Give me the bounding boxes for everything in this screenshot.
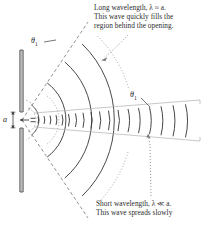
theta-beam-subscript: 1 [134,95,137,101]
bottom-caption-leader [149,136,152,196]
top-caption-arrowhead [101,57,107,61]
long-wavelength-wavefronts [31,44,114,196]
short-wavelength-wavefronts [38,104,188,137]
theta-upper-label: θ1 [31,36,38,47]
caption-short-line1: Short wavelength, λ ≪ a. [96,199,172,208]
top-caption-leader [104,35,128,58]
diffraction-drawing [0,0,208,225]
theta-upper-subscript: 1 [35,41,38,47]
caption-long-line2: This wave quickly fills the [94,12,174,21]
spread-angle-dashed-lines [22,22,88,218]
theta-upper-leader [44,40,56,42]
theta-beam-label: θ1 [130,90,137,101]
caption-long-line3: region behind the opening. [94,21,174,30]
caption-long-line1: Long wavelength, λ ≈ a. [94,3,174,12]
slit-width-dimension [11,111,16,128]
caption-short-wavelength: Short wavelength, λ ≪ a. This wave sprea… [96,199,172,217]
caption-long-wavelength: Long wavelength, λ ≈ a. This wave quickl… [94,3,174,31]
caption-short-line2: This wave spreads slowly [96,208,172,217]
theta-beam-leader [141,98,150,107]
incident-arrow [19,118,35,122]
slit-width-label: a [3,115,7,124]
long-wavelength-outer-dotted-arc [47,36,129,202]
diffraction-figure: Long wavelength, λ ≈ a. This wave quickl… [0,0,208,225]
